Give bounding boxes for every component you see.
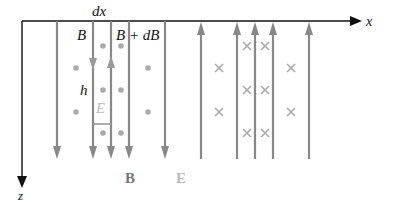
x-axis-label: x [365, 14, 373, 29]
dot-icon [118, 130, 124, 136]
cross-icon [215, 64, 223, 72]
field-line-down [53, 21, 61, 159]
field-line-up [269, 22, 277, 159]
x-axis [22, 16, 362, 26]
field-line-up [251, 22, 259, 159]
upward-field-lines [197, 22, 313, 159]
b-plus-db-label: B + dB [116, 27, 159, 43]
h-label: h [80, 82, 88, 98]
arrow-down-icon [125, 146, 133, 159]
arrow-down-icon [161, 146, 169, 159]
dot-icon [145, 109, 151, 115]
legend-b-label: B [125, 170, 135, 186]
arrow-down-icon [53, 146, 61, 159]
b-left-label: B [77, 27, 86, 43]
z-axis-arrow-icon [17, 176, 27, 188]
field-line-up [305, 22, 313, 159]
arrow-up-icon [233, 22, 241, 35]
cross-icon [215, 108, 223, 116]
dot-icon [145, 65, 151, 71]
cross-icon [287, 108, 295, 116]
arrow-up-icon [251, 22, 259, 35]
cross-icon [287, 64, 295, 72]
arrow-up-icon [305, 22, 313, 35]
arrow-down-icon [89, 146, 97, 159]
dot-icon [118, 43, 124, 49]
dot-icon [118, 87, 124, 93]
dot-icon [73, 65, 79, 71]
z-axis [17, 21, 27, 188]
legend-e-label: E [176, 170, 186, 186]
dx-label: dx [92, 3, 107, 19]
cross-icon [243, 86, 251, 94]
cross-icon [261, 129, 269, 137]
field-line-down [107, 21, 115, 159]
arrow-up-icon [197, 22, 205, 35]
loop-up-arrow-icon [107, 56, 115, 68]
field-line-down [161, 21, 169, 159]
dot-icon [73, 109, 79, 115]
cross-icon [243, 129, 251, 137]
field-line-up [233, 22, 241, 159]
z-axis-label: z [17, 188, 23, 203]
field-line-up [197, 22, 205, 159]
arrow-down-icon [107, 146, 115, 159]
dot-icon [100, 130, 106, 136]
electromagnetic-wave-diagram: x z dx B B + dB h E B E [0, 0, 394, 217]
cross-icon [261, 86, 269, 94]
cross-icon [261, 42, 269, 50]
x-axis-arrow-icon [350, 16, 362, 26]
field-line-down [89, 21, 97, 159]
cross-icon [243, 42, 251, 50]
dot-icon [100, 43, 106, 49]
loop-down-arrow-icon [89, 58, 97, 70]
dot-icon [100, 87, 106, 93]
arrow-up-icon [269, 22, 277, 35]
e-loop-label: E [95, 100, 105, 116]
